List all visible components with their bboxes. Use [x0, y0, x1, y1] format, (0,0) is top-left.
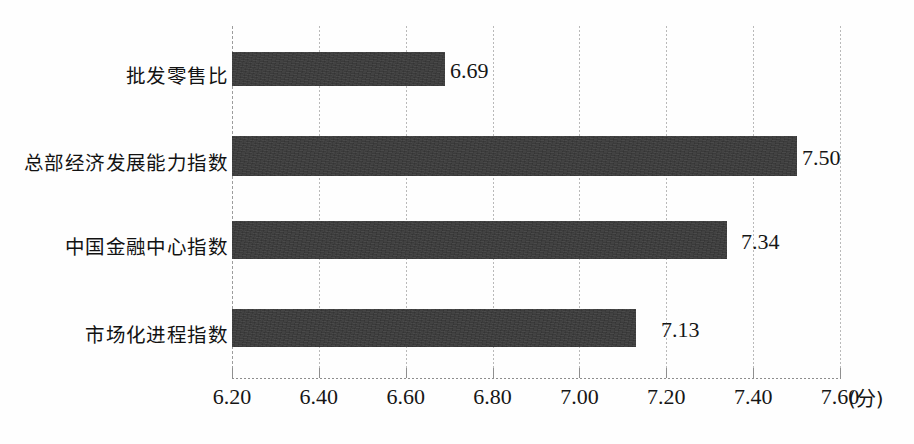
bar-headquarters-economy-development-capacity-index [232, 136, 797, 176]
plot-area [232, 26, 840, 378]
bar-marketization-process-index [232, 309, 636, 347]
x-tick-6-80 [493, 368, 494, 378]
category-label-china-financial-center-index: 中国金融中心指数 [0, 231, 228, 260]
x-tick-label-7-00: 7.00 [560, 384, 599, 410]
x-axis-line [232, 378, 841, 379]
gridline-7-60 [840, 26, 841, 378]
x-tick-6-60 [406, 368, 407, 378]
bar-china-financial-center-index [232, 221, 727, 259]
bar-wholesale-retail-ratio [232, 52, 445, 86]
x-tick-label-6-20: 6.20 [213, 384, 252, 410]
value-label-headquarters-economy-development-capacity-index: 7.50 [802, 145, 841, 171]
category-label-headquarters-economy-development-capacity-index: 总部经济发展能力指数 [14, 147, 228, 176]
value-label-wholesale-retail-ratio: 6.69 [450, 58, 489, 84]
category-label-wholesale-retail-ratio: 批发零售比 [0, 60, 228, 89]
value-label-marketization-process-index: 7.13 [661, 317, 700, 343]
x-tick-7-40 [753, 368, 754, 378]
x-tick-label-6-60: 6.60 [386, 384, 425, 410]
category-label-marketization-process-index: 市场化进程指数 [0, 319, 228, 348]
x-tick-7-60 [840, 368, 841, 378]
x-tick-label-7-40: 7.40 [734, 384, 773, 410]
x-tick-7-00 [579, 368, 580, 378]
x-tick-7-20 [666, 368, 667, 378]
x-axis-unit-label: (分) [848, 383, 884, 412]
horizontal-bar-chart: 批发零售比 总部经济发展能力指数 中国金融中心指数 市场化进程指数 6.69 7… [0, 0, 914, 444]
x-tick-6-20 [232, 368, 233, 378]
value-label-china-financial-center-index: 7.34 [741, 229, 780, 255]
gridline-7-40 [753, 26, 754, 378]
x-tick-label-6-80: 6.80 [473, 384, 512, 410]
x-tick-6-40 [319, 368, 320, 378]
x-tick-label-6-40: 6.40 [300, 384, 339, 410]
x-tick-label-7-20: 7.20 [647, 384, 686, 410]
